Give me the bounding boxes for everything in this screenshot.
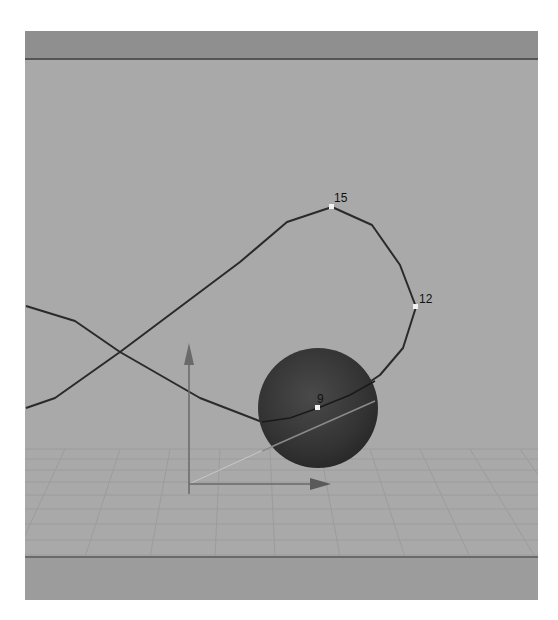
keyframe-marker xyxy=(413,304,418,309)
viewport-bottom-bar xyxy=(25,556,538,600)
keyframe-12[interactable]: 12 xyxy=(413,292,433,309)
floor-grid xyxy=(25,449,538,557)
keyframe-15[interactable]: 15 xyxy=(329,191,348,209)
scene-canvas[interactable]: 15 12 9 xyxy=(25,31,538,600)
keyframe-label: 15 xyxy=(334,191,348,205)
x-axis-arrow-icon xyxy=(310,478,331,490)
manipulator-x-axis[interactable] xyxy=(189,478,331,490)
keyframe-label: 12 xyxy=(419,292,433,306)
manipulator-y-axis[interactable] xyxy=(184,343,194,494)
keyframe-label: 9 xyxy=(317,392,324,406)
3d-viewport[interactable]: 15 12 9 xyxy=(25,31,538,600)
y-axis-arrow-icon xyxy=(184,343,194,365)
